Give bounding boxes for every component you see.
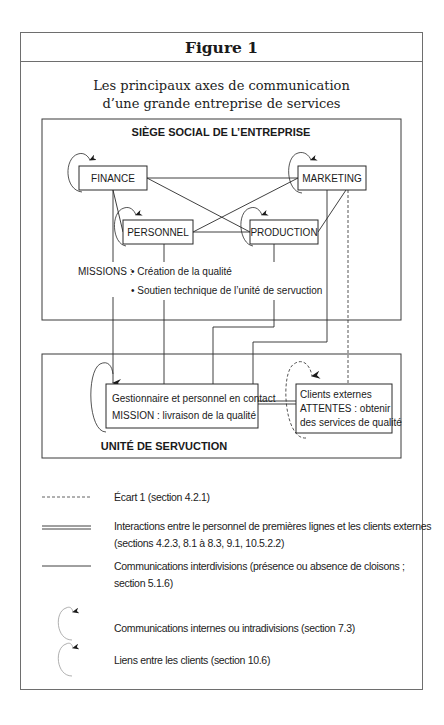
clients-box: Clients externes ATTENTES : obtenir des … [296,384,402,433]
legend-item-interdivision: Communications interdivisions (présence … [114,558,405,592]
double-line-icon [42,526,91,529]
mission-item-2: • Soutien technique de l’unité de servuc… [131,285,322,296]
legend-item-frontline-interactions: Interactions entre le personnel de premi… [114,518,431,552]
staff-box-line-2: MISSION : livraison de la qualité [112,410,256,421]
clients-box-line-2: ATTENTES : obtenir [300,403,391,414]
legend-item-gap-1: Écart 1 (section 4.2.1) [114,489,210,506]
marketing-label: MARKETING [302,173,362,184]
staff-box: Gestionnaire et personnel en contact MIS… [106,384,276,428]
node-personnel: PERSONNEL [123,220,193,244]
mission-item-1: • Création de la qualité [131,266,232,277]
node-finance: FINANCE [79,166,147,190]
missions-label: MISSIONS : [78,266,132,277]
legend-frontline-text-1: Interactions entre le personnel de premi… [114,518,431,535]
loop-arrow-icon [58,607,73,640]
loop-arrow-light-icon [58,643,73,676]
legend-gap-1-text: Écart 1 (section 4.2.1) [114,491,210,503]
legend-interdivision-text-2: section 5.1.6) [114,575,405,592]
clients-box-line-1: Clients externes [300,389,372,400]
legend-intradivision-text: Communications internes ou intradivision… [114,622,355,634]
staff-box-line-1: Gestionnaire et personnel en contact [112,393,276,404]
personnel-label: PERSONNEL [127,227,189,238]
node-marketing: MARKETING [298,166,366,190]
headquarters-title: SIÈGE SOCIAL DE L’ENTREPRISE [132,126,311,138]
legend-client-links-text: Liens entre les clients (section 10.6) [114,654,270,666]
node-production: PRODUCTION [250,220,318,244]
legend-item-intradivision: Communications internes ou intradivision… [114,620,355,637]
finance-label: FINANCE [91,173,135,184]
legend-interdivision-text-1: Communications interdivisions (présence … [114,558,405,575]
service-unit-title: UNITÉ DE SERVUCTION [101,440,227,452]
communication-diagram: SIÈGE SOCIAL DE L’ENTREPRISE FINANCE MAR… [0,0,444,725]
legend-item-client-links: Liens entre les clients (section 10.6) [114,652,270,669]
clients-box-line-3: des services de qualité [300,417,402,428]
production-label: PRODUCTION [250,227,317,238]
legend-frontline-text-2: (sections 4.2.3, 8.1 à 8.3, 9.1, 10.5.2.… [114,535,431,552]
